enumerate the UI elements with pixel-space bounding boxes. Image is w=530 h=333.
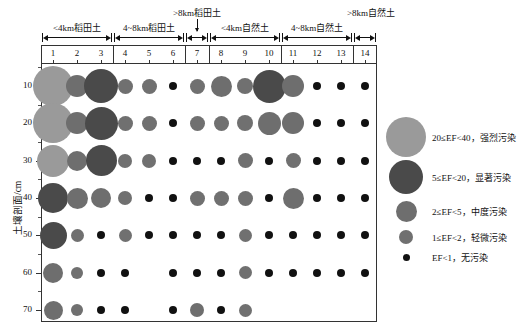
group-label: 4~8km自然土 [291, 21, 343, 34]
data-bubble [313, 194, 321, 202]
data-bubble [190, 116, 205, 131]
column-tick [125, 60, 126, 64]
group-label: >8km稻田土 [173, 6, 221, 19]
column-tick [197, 60, 198, 64]
column-number: 1 [41, 48, 65, 58]
data-bubble [71, 267, 83, 279]
data-bubble [265, 157, 273, 165]
data-bubble [237, 78, 253, 94]
group-extent-arrow [114, 33, 184, 42]
column-number: 6 [161, 48, 185, 58]
data-bubble [337, 82, 345, 90]
data-bubble [169, 157, 177, 165]
data-bubble [44, 301, 63, 320]
data-bubble [217, 306, 225, 314]
y-axis-minor-tick [38, 217, 41, 218]
data-bubble [86, 145, 117, 176]
data-bubble [40, 222, 67, 249]
column-number: 8 [209, 48, 233, 58]
y-axis-label: 60 [1, 267, 32, 277]
data-bubble [118, 79, 133, 94]
data-bubble [38, 183, 68, 213]
column-tick [341, 60, 342, 64]
legend-swatch [386, 117, 426, 157]
data-bubble [37, 145, 69, 177]
data-bubble [119, 229, 132, 242]
data-bubble [121, 269, 129, 277]
data-bubble [289, 269, 297, 277]
data-bubble [193, 157, 201, 165]
data-bubble [238, 153, 253, 168]
data-bubble [313, 82, 321, 90]
y-axis-label: 20 [1, 117, 32, 127]
group-extent-arrow [282, 33, 352, 42]
y-axis-minor-tick [38, 105, 41, 106]
y-axis-tick [36, 310, 41, 311]
data-bubble [91, 188, 111, 208]
data-bubble [193, 269, 201, 277]
column-number: 11 [281, 48, 305, 58]
column-number: 9 [233, 48, 257, 58]
column-tick [293, 60, 294, 64]
legend-label: 5≤EF<20，显著污染 [432, 171, 511, 184]
column-number: 14 [353, 48, 377, 58]
data-bubble [67, 188, 88, 209]
data-bubble [313, 157, 321, 165]
column-tick [101, 60, 102, 64]
column-number: 13 [329, 48, 353, 58]
group-extent-arrow [42, 33, 112, 42]
y-axis-minor-tick [38, 254, 41, 255]
data-bubble [253, 70, 286, 103]
data-bubble [238, 191, 253, 206]
column-tick [221, 60, 222, 64]
group-extent-arrow [354, 33, 376, 42]
group-extent-arrow [186, 33, 208, 42]
data-bubble [118, 191, 132, 205]
data-bubble [361, 82, 369, 90]
legend-swatch [403, 254, 410, 261]
data-bubble [142, 116, 157, 131]
column-number: 5 [137, 48, 161, 58]
data-bubble [214, 191, 229, 206]
group-label: <4km自然土 [221, 21, 269, 34]
data-bubble [239, 304, 252, 317]
y-axis-minor-tick [38, 142, 41, 143]
data-bubble [239, 266, 252, 279]
y-axis-minor-tick [38, 291, 41, 292]
data-bubble [361, 194, 369, 202]
data-bubble [118, 154, 132, 168]
column-number: 7 [185, 48, 209, 58]
data-bubble [190, 79, 205, 94]
data-bubble [190, 191, 205, 206]
data-bubble [97, 269, 105, 277]
column-tick [365, 60, 366, 64]
y-axis-minor-tick [38, 179, 41, 180]
legend-label: 20≤EF<40，强烈污染 [432, 131, 516, 144]
column-tick [149, 60, 150, 64]
legend-swatch [389, 160, 423, 194]
legend-swatch [396, 201, 417, 222]
column-tick [245, 60, 246, 64]
data-bubble [190, 303, 204, 317]
data-bubble [211, 76, 232, 97]
data-bubble [239, 229, 252, 242]
data-bubble [337, 269, 345, 277]
legend-label: 2≤EF<5，中度污染 [432, 205, 507, 218]
data-bubble [142, 79, 157, 94]
data-bubble [71, 229, 84, 242]
data-bubble [142, 154, 156, 168]
data-bubble [265, 194, 273, 202]
data-bubble [283, 188, 304, 209]
y-axis-title: 土壤剖面/cm [10, 181, 24, 235]
data-bubble [43, 263, 63, 283]
column-number: 10 [257, 48, 281, 58]
data-bubble [337, 157, 345, 165]
data-bubble [145, 194, 153, 202]
column-number: 4 [113, 48, 137, 58]
data-bubble [84, 69, 118, 103]
column-number: 3 [89, 48, 113, 58]
data-bubble [169, 82, 177, 90]
data-bubble [361, 269, 369, 277]
data-bubble [121, 306, 129, 314]
column-number: 12 [305, 48, 329, 58]
